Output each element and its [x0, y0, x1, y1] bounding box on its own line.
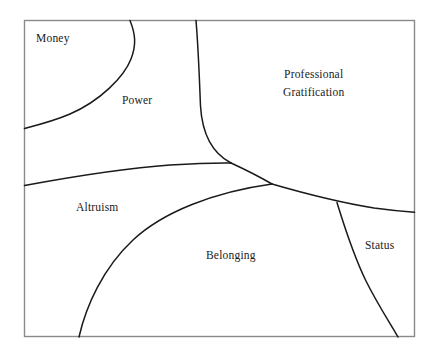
region-label-altruism: Altruism [76, 199, 119, 217]
region-label-belonging: Belonging [206, 247, 256, 265]
region-label-status: Status [365, 237, 394, 255]
region-label-money: Money [36, 30, 70, 48]
region-label-power: Power [122, 92, 152, 110]
diagram-canvas: Money Power Professional Gratification A… [0, 0, 440, 351]
partition-diagram-svg [0, 0, 440, 351]
region-label-professional-gratification: Professional Gratification [283, 66, 344, 102]
plot-frame [25, 21, 415, 337]
